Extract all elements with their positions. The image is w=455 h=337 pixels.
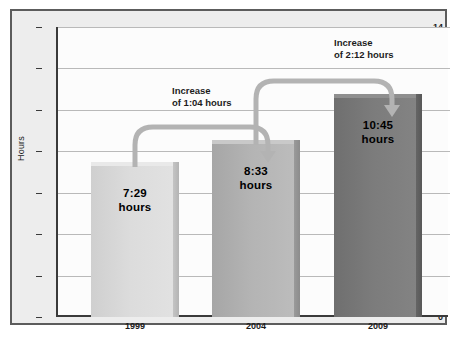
- x-axis-label-2009: 2009: [334, 321, 422, 331]
- bar-value-unit: hours: [212, 178, 300, 192]
- annotation-2: Increase of 2:12 hours: [334, 37, 394, 61]
- chart-figure: Hours 14 12 10 8 6 4 2 0: [0, 0, 455, 337]
- chart-panel: Hours 14 12 10 8 6 4 2 0: [14, 13, 443, 321]
- x-axis-label-1999: 1999: [91, 321, 179, 331]
- annotation-2-line2: of 2:12 hours: [334, 49, 394, 61]
- bar-2004[interactable]: 8:33 hours: [212, 140, 300, 317]
- bar-value-label: 10:45: [334, 118, 422, 132]
- annotation-1-line1: Increase: [172, 85, 232, 97]
- bar-value-unit: hours: [334, 132, 422, 146]
- y-axis-title: Hours: [16, 136, 26, 161]
- bar-value-unit: hours: [91, 200, 179, 214]
- bar-2009[interactable]: 10:45 hours: [334, 94, 422, 317]
- bar-top-bevel: [212, 140, 300, 144]
- annotation-1: Increase of 1:04 hours: [172, 85, 232, 109]
- bar-1999[interactable]: 7:29 hours: [91, 162, 179, 317]
- bar-top-bevel: [91, 162, 179, 166]
- bar-value-label: 8:33: [212, 164, 300, 178]
- bar-value-label: 7:29: [91, 186, 179, 200]
- bar-top-bevel: [334, 94, 422, 98]
- annotation-1-line2: of 1:04 hours: [172, 97, 232, 109]
- plot-area: 7:29 hours 8:33 hours 10:45 hours: [56, 27, 448, 317]
- gridline: [58, 68, 450, 69]
- annotation-2-line1: Increase: [334, 37, 394, 49]
- gridline: [58, 27, 450, 28]
- x-axis-label-2004: 2004: [212, 321, 300, 331]
